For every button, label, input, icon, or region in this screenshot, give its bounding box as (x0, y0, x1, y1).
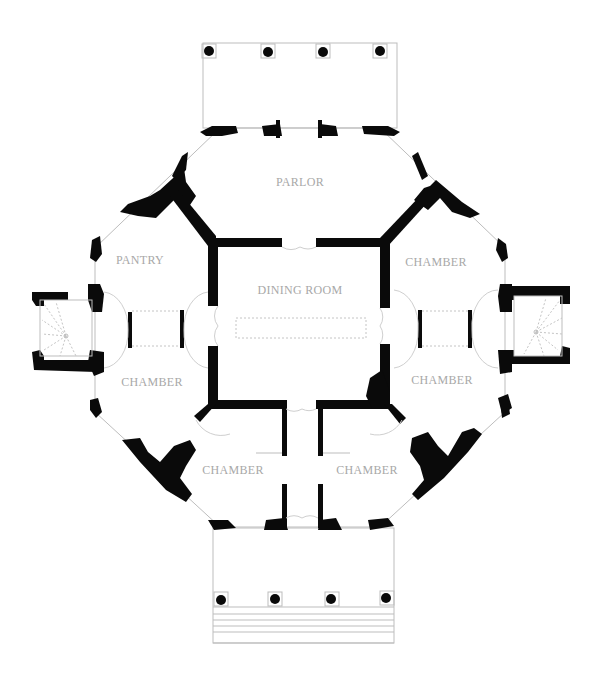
column-icon (375, 46, 385, 56)
east-stair-tower (504, 286, 570, 364)
south-portico (213, 528, 394, 643)
column-icon (216, 595, 226, 605)
room-label-chamber-sw: CHAMBER (202, 463, 263, 477)
interior-walls (170, 190, 428, 528)
column-icon (204, 46, 214, 56)
column-icon (270, 594, 280, 604)
room-label-chamber-se: CHAMBER (336, 463, 397, 477)
column-icon (318, 47, 328, 57)
spiral-stair-icon (42, 302, 76, 356)
east-passage (394, 290, 498, 368)
column-icon (326, 594, 336, 604)
column-icon (263, 47, 273, 57)
room-label-dining-room: DINING ROOM (258, 283, 343, 297)
room-label-chamber-w: CHAMBER (121, 375, 182, 389)
spiral-stair-icon (524, 298, 562, 356)
entry-steps (213, 607, 394, 643)
room-label-pantry: PANTRY (116, 253, 164, 267)
west-stair-tower (32, 292, 96, 372)
column-icon (381, 593, 391, 603)
north-portico (202, 43, 397, 128)
room-label-chamber-e: CHAMBER (411, 373, 472, 387)
west-passage (104, 292, 208, 368)
dining-table (236, 318, 366, 338)
room-label-parlor: PARLOR (276, 175, 324, 189)
room-label-chamber-ne: CHAMBER (405, 255, 466, 269)
floor-plan: PARLOR PANTRY DINING ROOM CHAMBER CHAMBE… (0, 0, 600, 688)
